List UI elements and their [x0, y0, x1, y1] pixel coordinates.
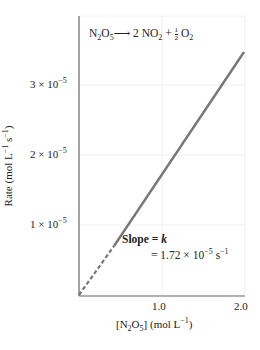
y-tick-2: 2 × 10−5 — [30, 148, 67, 160]
y-axis-title: Rate (mol L−1 s−1) — [2, 126, 14, 207]
x-tick-1: 1.0 — [152, 300, 166, 312]
rate-line — [114, 52, 244, 246]
y-tick-1: 1 × 10−5 — [30, 218, 67, 230]
x-tick-2: 2.0 — [234, 300, 248, 312]
y-tick-3: 3 × 10−5 — [30, 78, 67, 90]
slope-label: Slope = k — [122, 233, 167, 245]
extrapolated-line — [79, 246, 114, 295]
slope-value: = 1.72 × 10−5 s−1 — [151, 249, 229, 261]
plot-area — [0, 0, 260, 350]
reaction-equation: N2O5⟶ 2 NO2 + 12 O2 — [89, 26, 193, 42]
x-axis-title: [N2O5] (mol L−1) — [116, 318, 192, 330]
